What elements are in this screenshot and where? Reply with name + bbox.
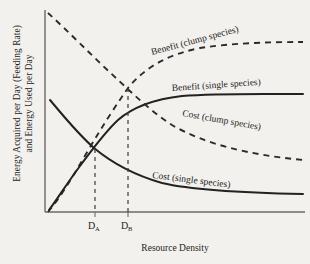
x-axis-title: Resource Density [141,243,209,253]
figure-container: Energy Acquired per Day (Feeding Rate) a… [0,0,310,264]
tick-label-db-sub: B [128,225,133,232]
label-benefit-single: Benefit (single species) [171,77,261,94]
chart-plot: D A D B Resource Density Benefit (clump … [0,0,310,264]
label-cost-clump: Cost (clump species) [181,108,261,133]
label-benefit-clump: Benefit (clump species) [150,24,240,58]
tick-label-da-sub: A [95,225,100,232]
